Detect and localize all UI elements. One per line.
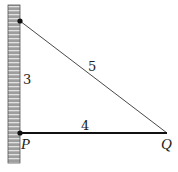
vertical-side-label: 3 [23, 72, 31, 87]
point-p-dot [17, 130, 22, 135]
point-q-label: Q [161, 136, 172, 152]
horizontal-side-label: 4 [81, 118, 89, 133]
triangle-diagram: 3 5 4 P Q [0, 0, 178, 172]
hypotenuse-label: 5 [88, 59, 96, 74]
point-p-label: P [20, 136, 30, 152]
hypotenuse-line [20, 21, 167, 133]
top-attachment-point [17, 18, 22, 23]
wall [8, 5, 20, 163]
